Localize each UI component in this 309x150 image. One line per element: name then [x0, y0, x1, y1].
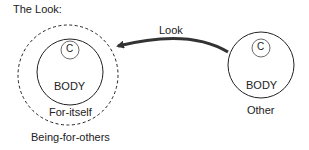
- diagram-title: The Look:: [13, 3, 62, 15]
- right-consciousness-label: C: [257, 41, 264, 52]
- left-consciousness-label: C: [66, 43, 73, 54]
- right-body-label: BODY: [246, 79, 277, 91]
- look-label: Look: [159, 24, 183, 36]
- diagram-canvas: [0, 0, 309, 150]
- left-body-label: BODY: [54, 80, 85, 92]
- look-arrow: [118, 38, 228, 52]
- other-label: Other: [247, 104, 275, 116]
- being-for-others-label: Being-for-others: [31, 131, 110, 143]
- for-itself-label: For-itself: [49, 106, 92, 118]
